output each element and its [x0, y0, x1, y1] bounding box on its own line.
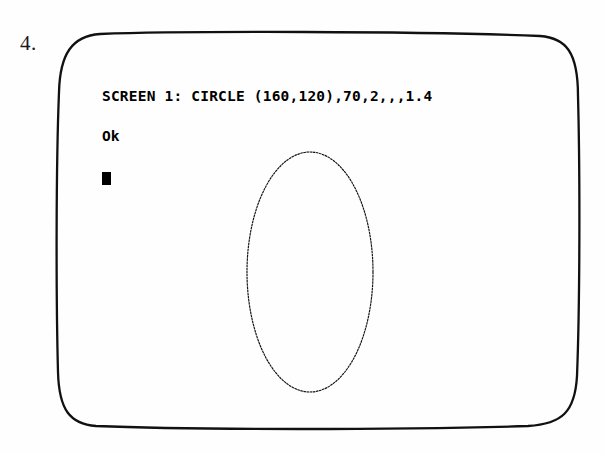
figure-container: 4. SCREEN 1: CIRCLE (160,120),70,2,,,1.4… [0, 0, 605, 454]
plotted-ellipse [247, 152, 373, 392]
crt-screen-area: SCREEN 1: CIRCLE (160,120),70,2,,,1.4 Ok [60, 35, 580, 427]
crt-graphics-plot [60, 35, 580, 427]
